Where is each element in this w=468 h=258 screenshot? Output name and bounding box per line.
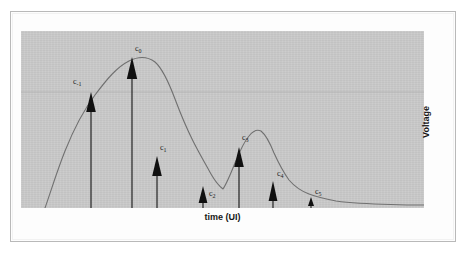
cursor-subscript-c3: 3 (246, 137, 249, 143)
cursor-arrow-c1 (152, 156, 162, 208)
cursor-label-c0: c0 (135, 45, 142, 53)
cursor-label-c5: c5 (315, 188, 322, 196)
cursor-arrow-c0 (127, 57, 137, 208)
cursor-arrow-c3 (234, 147, 244, 208)
cursor-label-c-minus-1: c-1 (73, 78, 82, 86)
cursor-arrow-c-minus-1 (86, 92, 96, 208)
cursor-subscript-c1: 1 (164, 147, 167, 153)
pulse-response-plot (21, 31, 424, 208)
cursor-label-c3: c3 (242, 134, 249, 142)
cursor-subscript-c2: 2 (213, 193, 216, 199)
cursor-subscript-c4: 4 (281, 173, 284, 179)
y-axis-title: Voltage (421, 82, 431, 162)
cursor-arrow-c5 (308, 197, 314, 208)
cursor-label-c4: c4 (277, 170, 284, 178)
cursor-subscript-c-minus-1: -1 (77, 81, 82, 87)
cursor-subscript-c0: 0 (139, 48, 142, 54)
pulse-response-curve (45, 57, 424, 208)
cursor-subscript-c5: 5 (319, 191, 322, 197)
cursor-label-c1: c1 (160, 144, 167, 152)
cursor-arrow-c4 (269, 181, 278, 208)
x-axis-title: time (UI) (21, 212, 424, 222)
figure-root: c-1 c0 c1 c2 c3 c4 c5 time (UI) Voltage (0, 0, 468, 258)
plot-area: c-1 c0 c1 c2 c3 c4 c5 (21, 31, 424, 208)
cursor-label-c2: c2 (209, 190, 216, 198)
cursor-arrow-c2 (199, 186, 208, 208)
